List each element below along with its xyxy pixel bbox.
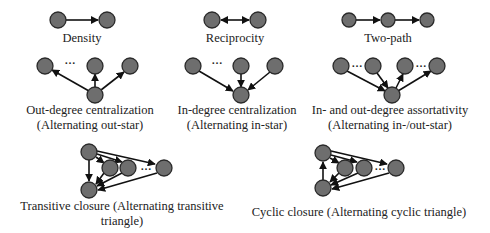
label-cyclic: Cyclic closure (Alternating cyclic trian… [252,205,467,219]
ellipsis: … [141,160,152,172]
ellipsis: … [416,57,427,69]
panel-in-out-star: … … In- and out-degree assortativity (Al… [312,57,469,132]
panel-cyclic-triangle: … Cyclic closure (Alternating cyclic tri… [252,145,467,219]
label-out-star-line1: Out-degree centralization [26,103,154,117]
label-out-star-line2: (Alternating out-star) [37,118,144,132]
label-density: Density [63,31,103,45]
label-transitive-line2: triangle) [101,214,143,228]
label-two-path: Two-path [364,31,412,45]
label-transitive-line1: Transitive closure (Alternating transiti… [20,199,224,213]
panel-density: Density [50,12,115,45]
ellipsis: … [375,160,386,172]
panel-transitive-triangle: … Transitive closure (Alternating transi… [20,144,224,228]
panel-in-star: … In-degree centralization (Alternating … [177,54,297,132]
label-in-out-star-line2: (Alternating in-/out-star) [328,118,452,132]
panel-two-path: Two-path [342,13,434,45]
ellipsis: … [65,54,76,66]
ellipsis: … [352,57,363,69]
label-in-star-line1: In-degree centralization [177,103,297,117]
label-reciprocity: Reciprocity [206,31,265,45]
panel-reciprocity: Reciprocity [204,12,266,45]
network-configurations-diagram: Density Reciprocity Two-path … Out-degre… [0,0,490,233]
panel-out-star: … Out-degree centralization (Alternating… [26,54,154,132]
ellipsis: … [212,54,223,66]
label-in-star-line2: (Alternating in-star) [187,118,287,132]
label-in-out-star-line1: In- and out-degree assortativity [312,103,469,117]
